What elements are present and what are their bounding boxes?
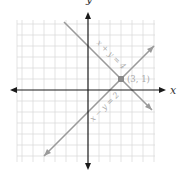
arrow-up-icon xyxy=(85,12,91,19)
intersection-point xyxy=(118,76,124,82)
arrow-left-icon xyxy=(10,87,17,93)
system-of-equations-graph: x y (3, 1) x + y = 4 x − y = 2 xyxy=(0,0,190,176)
y-axis-label: y xyxy=(85,0,93,6)
grid xyxy=(17,20,155,162)
x-axis-label: x xyxy=(170,84,177,97)
intersection-label: (3, 1) xyxy=(127,74,150,84)
line-label-x-plus-y: x + y = 4 xyxy=(95,38,128,71)
y-axis xyxy=(85,12,91,170)
arrow-down-icon xyxy=(85,163,91,170)
arrow-right-icon xyxy=(159,87,166,93)
